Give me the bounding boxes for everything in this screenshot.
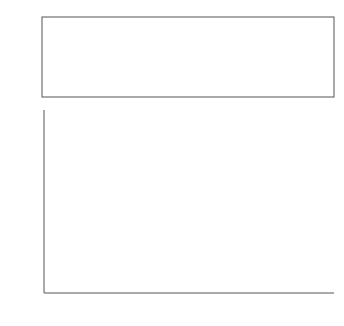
humidity-plot	[42, 17, 334, 97]
deflection-plot	[44, 110, 334, 293]
figure	[0, 0, 344, 326]
humidity-plot-frame	[42, 17, 334, 97]
